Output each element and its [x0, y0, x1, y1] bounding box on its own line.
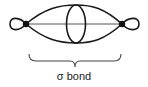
orbital-envelope-top — [26, 5, 122, 24]
right-nucleus — [119, 21, 125, 27]
bond-label: σ bond — [0, 70, 148, 83]
bracket — [29, 54, 121, 67]
left-nucleus — [23, 21, 29, 27]
orbital-envelope-bottom — [26, 24, 122, 43]
